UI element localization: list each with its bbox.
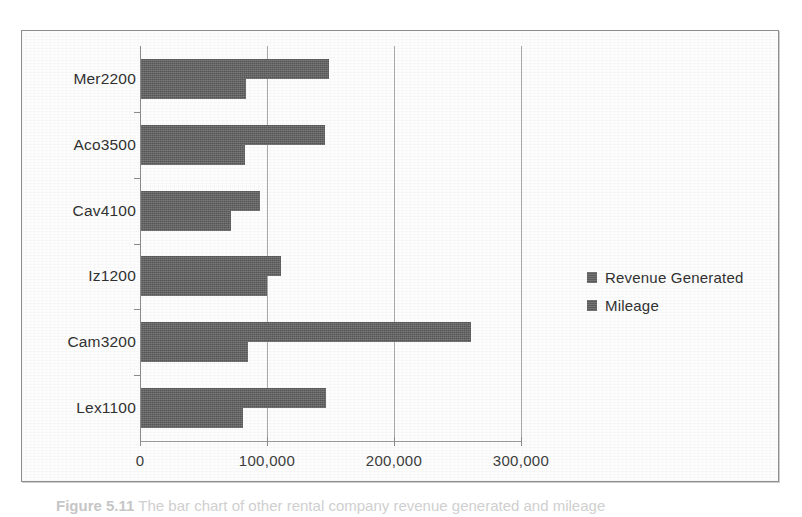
gridline-100000 bbox=[267, 46, 268, 441]
y-axis-category-labels: Mer2200Aco3500Cav4100Iz1200Cam3200Lex110… bbox=[40, 46, 136, 441]
plot-area: 0100,000200,000300,000 bbox=[140, 46, 540, 450]
legend-item-mileage[interactable]: Mileage bbox=[587, 291, 762, 319]
x-tick-label: 100,000 bbox=[239, 452, 295, 469]
y-axis-label-lex1100: Lex1100 bbox=[76, 399, 136, 417]
legend-item-label: Mileage bbox=[605, 297, 659, 314]
figure-caption-number: Figure 5.11 bbox=[56, 497, 134, 514]
figure-caption: Figure 5.11 The bar chart of other renta… bbox=[56, 497, 796, 517]
legend-swatch-icon bbox=[587, 272, 597, 283]
bar-iz1200-revenue-generated[interactable] bbox=[141, 256, 281, 276]
y-tick-mark bbox=[134, 244, 141, 245]
legend-item-label: Revenue Generated bbox=[605, 269, 744, 286]
y-tick-mark bbox=[134, 112, 141, 113]
x-tick-mark bbox=[394, 437, 395, 446]
x-axis-line bbox=[140, 441, 521, 442]
figure-caption-text: The bar chart of other rental company re… bbox=[138, 497, 605, 514]
y-axis-label-iz1200: Iz1200 bbox=[88, 267, 136, 285]
bar-cam3200-mileage[interactable] bbox=[141, 342, 248, 362]
bar-mer2200-mileage[interactable] bbox=[141, 79, 246, 99]
bar-cav4100-revenue-generated[interactable] bbox=[141, 191, 260, 211]
x-tick-mark bbox=[521, 437, 522, 446]
y-tick-mark bbox=[134, 309, 141, 310]
bar-lex1100-mileage[interactable] bbox=[141, 408, 243, 428]
figure-container: Mer2200Aco3500Cav4100Iz1200Cam3200Lex110… bbox=[0, 0, 802, 517]
bar-aco3500-mileage[interactable] bbox=[141, 145, 245, 165]
bar-mer2200-revenue-generated[interactable] bbox=[141, 59, 329, 79]
gridline-200000 bbox=[394, 46, 395, 441]
chart-frame: Mer2200Aco3500Cav4100Iz1200Cam3200Lex110… bbox=[21, 30, 779, 482]
y-axis-label-cam3200: Cam3200 bbox=[67, 333, 136, 351]
y-axis-label-mer2200: Mer2200 bbox=[73, 70, 136, 88]
x-tick-label: 300,000 bbox=[493, 452, 549, 469]
x-tick-mark bbox=[140, 437, 141, 446]
bar-iz1200-mileage[interactable] bbox=[141, 276, 267, 296]
y-axis-label-aco3500: Aco3500 bbox=[73, 136, 136, 154]
x-tick-mark bbox=[267, 437, 268, 446]
legend-swatch-icon bbox=[587, 300, 597, 311]
x-tick-label: 200,000 bbox=[366, 452, 422, 469]
y-tick-mark bbox=[134, 375, 141, 376]
chart-legend: Revenue Generated Mileage bbox=[587, 263, 762, 319]
x-tick-label: 0 bbox=[136, 452, 145, 469]
gridline-300000 bbox=[521, 46, 522, 441]
bar-aco3500-revenue-generated[interactable] bbox=[141, 125, 325, 145]
bar-cav4100-mileage[interactable] bbox=[141, 211, 231, 231]
bar-cam3200-revenue-generated[interactable] bbox=[141, 322, 471, 342]
y-tick-mark bbox=[134, 178, 141, 179]
legend-item-revenue-generated[interactable]: Revenue Generated bbox=[587, 263, 762, 291]
bar-lex1100-revenue-generated[interactable] bbox=[141, 388, 326, 408]
y-axis-label-cav4100: Cav4100 bbox=[73, 202, 136, 220]
